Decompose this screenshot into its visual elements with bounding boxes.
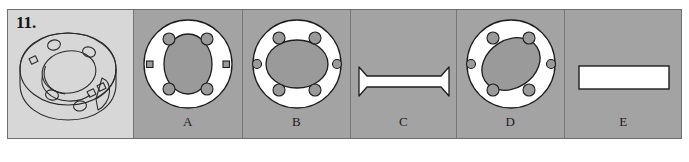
option-c-shape — [356, 16, 452, 112]
option-letter-d: D — [457, 114, 564, 130]
option-letter-e: E — [565, 114, 682, 130]
option-panel-d[interactable]: D — [457, 10, 565, 138]
option-b-shape — [249, 16, 345, 112]
option-letter-a: A — [134, 114, 242, 130]
option-a-shape — [140, 16, 236, 112]
option-e-shape — [572, 16, 676, 112]
option-d-shape — [463, 16, 559, 112]
isometric-flanged-ring-drawing — [14, 22, 130, 134]
question-figure: 11. — [7, 9, 682, 139]
option-panel-a[interactable]: A — [134, 10, 243, 138]
option-panel-e[interactable]: E — [565, 10, 682, 138]
panel-prompt[interactable]: 11. — [8, 10, 134, 138]
option-letter-b: B — [243, 114, 350, 130]
option-letter-c: C — [351, 114, 456, 130]
option-panel-b[interactable]: B — [243, 10, 351, 138]
option-panel-c[interactable]: C — [351, 10, 457, 138]
